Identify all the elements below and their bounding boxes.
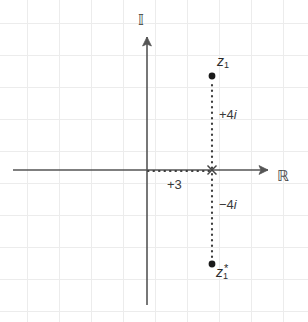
point-z1-label-base: z (217, 53, 224, 69)
point-z1-label-subscript: 1 (224, 60, 229, 70)
point-z1-conjugate-label-base: z (216, 264, 223, 280)
point-z1-conjugate-marker (209, 261, 216, 268)
imaginary-axis-label: 𝕀 (138, 12, 144, 27)
negative-imag-offset-value: −4 (219, 197, 234, 212)
positive-imag-offset-unit: i (234, 107, 237, 122)
point-z1-marker (209, 73, 216, 80)
real-offset-label: +3 (167, 178, 182, 191)
real-axis-label: ℝ (277, 168, 289, 183)
real-axis (13, 166, 268, 175)
negative-imag-offset-unit: i (234, 197, 237, 212)
point-z1-label: z1 (217, 54, 229, 68)
plot-canvas (0, 0, 308, 322)
positive-imag-offset-value: +4 (219, 107, 234, 122)
negative-imag-offset-label: −4i (219, 198, 237, 211)
point-z1-conjugate-label-superscript: * (224, 262, 228, 274)
complex-plane-figure: 𝕀 ℝ z1 z1* +4i −4i +3 (0, 0, 308, 322)
positive-imag-offset-label: +4i (219, 108, 237, 121)
point-z1-conjugate-label: z1* (216, 265, 232, 279)
